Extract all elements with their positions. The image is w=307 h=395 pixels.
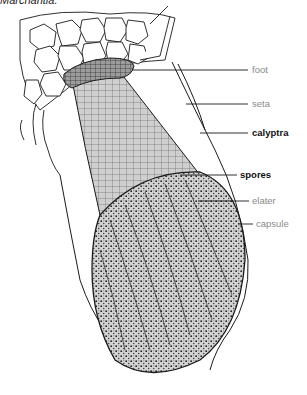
label-seta: seta [252,99,270,109]
label-elater: elater [252,196,276,206]
label-capsule: capsule [256,219,289,229]
label-calyptra: calyptra [252,128,288,138]
label-foot: foot [252,65,268,75]
label-spores: spores [240,170,271,180]
